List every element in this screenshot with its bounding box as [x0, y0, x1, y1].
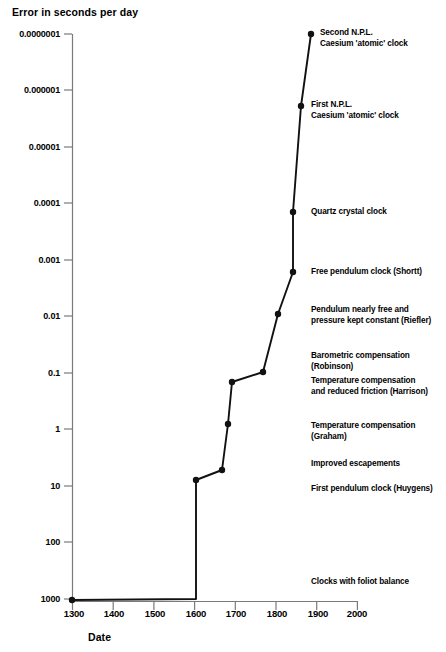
data-markers — [69, 31, 314, 603]
data-point — [229, 379, 235, 385]
y-tick-label-9: 100 — [46, 537, 60, 547]
x-tick-label-5: 1800 — [267, 608, 287, 619]
annotation-first-npl-caesium-clock: First N.P.L. Caesium 'atomic' clock — [311, 100, 399, 121]
annotation-temperature-compensation-harrison: Temperature compensation and reduced fri… — [311, 376, 428, 397]
data-point — [290, 269, 296, 275]
x-tick-label-1: 1400 — [104, 608, 124, 619]
data-point — [275, 311, 281, 317]
annotation-quartz-crystal-clock: Quartz crystal clock — [311, 207, 387, 218]
annotation-improved-escapements: Improved escapements — [311, 459, 400, 470]
y-tick-label-2: 0.00001 — [29, 142, 60, 152]
data-point — [290, 209, 296, 215]
y-tick-label-5: 0.01 — [43, 311, 60, 321]
data-point — [219, 467, 225, 473]
annotation-temperature-compensation-graham: Temperature compensation (Graham) — [311, 421, 415, 442]
y-tick-label-8: 10 — [50, 481, 60, 491]
plot-area — [0, 0, 446, 652]
data-point — [298, 103, 304, 109]
data-point — [69, 597, 75, 603]
data-point — [308, 31, 314, 37]
x-tick-label-7: 2000 — [347, 608, 367, 619]
y-tick-label-10: 1000 — [41, 594, 60, 604]
clipped-caption-remnant — [6, 645, 306, 652]
y-tick-label-4: 0.001 — [38, 255, 60, 265]
data-point — [260, 369, 266, 375]
x-tick-label-2: 1500 — [145, 608, 165, 619]
x-tick-label-4: 1700 — [226, 608, 246, 619]
y-tick-label-7: 1 — [55, 424, 60, 434]
annotation-free-pendulum-clock-shortt: Free pendulum clock (Shortt) — [311, 267, 422, 278]
data-point — [193, 477, 199, 483]
data-line — [72, 34, 311, 600]
annotation-pendulum-nearly-free-riefler: Pendulum nearly free and pressure kept c… — [311, 305, 431, 326]
y-tick-marks — [64, 34, 72, 599]
y-tick-label-1: 0.000001 — [24, 85, 60, 95]
x-tick-label-0: 1300 — [64, 608, 84, 619]
x-tick-label-6: 1900 — [308, 608, 328, 619]
y-tick-label-6: 0.1 — [48, 368, 60, 378]
x-axis-title: Date — [88, 631, 111, 643]
x-tick-label-3: 1600 — [186, 608, 206, 619]
y-tick-label-0: 0.0000001 — [19, 29, 60, 39]
annotation-second-npl-caesium-clock: Second N.P.L. Caesium 'atomic' clock — [320, 28, 408, 49]
clock-accuracy-chart: Error in seconds per day — [0, 0, 446, 652]
annotation-barometric-compensation-robinson: Barometric compensation (Robinson) — [311, 351, 410, 372]
annotation-first-pendulum-clock-huygens: First pendulum clock (Huygens) — [311, 484, 433, 495]
annotation-clocks-with-foliot-balance: Clocks with foliot balance — [311, 577, 409, 588]
y-tick-label-3: 0.0001 — [34, 198, 60, 208]
data-point — [225, 421, 231, 427]
